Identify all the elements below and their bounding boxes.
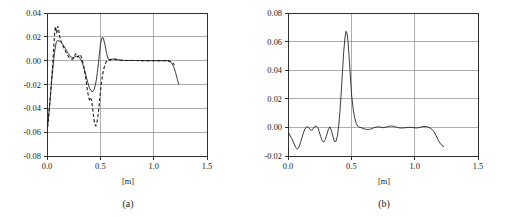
chart-b-y-tick-label: 0.02	[267, 95, 282, 104]
chart-b-series	[289, 31, 444, 149]
chart-b-frame	[288, 13, 478, 156]
chart-a-x-axis-label: [m]	[122, 177, 134, 186]
figure-container: 0.040.020.00-0.02-0.04-0.06-0.080.00.51.…	[0, 0, 507, 217]
chart-panel-a: 0.040.020.00-0.02-0.04-0.06-0.080.00.51.…	[0, 0, 253, 217]
chart-a-y-tick-label: 0.02	[26, 33, 41, 42]
chart-b-x-tick-label: 0.0	[283, 162, 293, 171]
chart-a-x-tick-label: 0.0	[42, 162, 52, 171]
chart-a-series	[48, 26, 179, 127]
chart-b-x-tick-label: 1.0	[409, 162, 419, 171]
chart-panel-b: 0.080.060.040.020.00-0.020.00.51.01.5 [m…	[253, 0, 506, 217]
chart-a-x-tick-label: 0.5	[95, 162, 105, 171]
chart-a-y-tick-label: -0.02	[24, 81, 41, 90]
chart-b-tick-labels: 0.080.060.040.020.00-0.020.00.51.01.5	[265, 9, 484, 171]
chart-a-y-tick-label: 0.04	[26, 9, 41, 18]
chart-a-x-tick-label: 1.0	[148, 162, 158, 171]
chart-a-y-tick-label: -0.04	[24, 104, 42, 113]
chart-b-y-tick-label: 0.08	[267, 9, 282, 18]
chart-a-grid	[47, 13, 207, 156]
chart-b-x-axis-label: [m]	[378, 177, 390, 186]
chart-a-x-tick-label: 1.5	[202, 162, 212, 171]
chart-b-ticks	[285, 13, 479, 160]
chart-b-y-tick-label: 0.06	[267, 38, 282, 47]
chart-a-series-solid	[48, 38, 179, 128]
chart-b-x-tick-label: 0.5	[346, 162, 356, 171]
chart-a-ticks	[44, 13, 208, 160]
chart-b-series-solid	[289, 31, 444, 149]
chart-a-y-tick-label: 0.00	[26, 57, 41, 66]
chart-b-x-tick-label: 1.5	[473, 162, 483, 171]
chart-a-y-tick-label: -0.06	[24, 128, 41, 137]
chart-b-y-tick-label: 0.04	[267, 66, 282, 75]
chart-a-svg: 0.040.020.00-0.02-0.04-0.06-0.080.00.51.…	[0, 0, 253, 217]
chart-b-svg: 0.080.060.040.020.00-0.020.00.51.01.5 [m…	[253, 0, 507, 217]
chart-b-y-tick-label: -0.02	[265, 152, 282, 161]
chart-b-grid	[288, 13, 478, 156]
chart-a-tick-labels: 0.040.020.00-0.02-0.04-0.06-0.080.00.51.…	[24, 9, 213, 171]
chart-a-series-dashed	[48, 26, 175, 127]
chart-a-caption: (a)	[122, 198, 133, 210]
chart-b-caption: (b)	[378, 198, 390, 210]
chart-b-y-tick-label: 0.00	[267, 123, 282, 132]
chart-a-y-tick-label: -0.08	[24, 152, 41, 161]
